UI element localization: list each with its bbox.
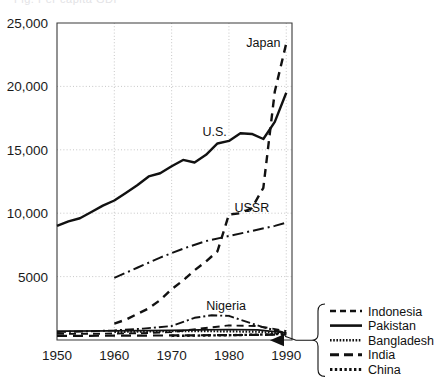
legend-leader-arrow [270, 304, 325, 376]
legend-label-china: China [368, 363, 401, 377]
x-gridlines [114, 23, 286, 340]
clipped-header-text: Fig. Per capita GDP [14, 0, 121, 5]
series-line-bangladesh [114, 331, 286, 334]
annotation-nigeria: Nigeria [206, 299, 246, 313]
legend-item-indonesia[interactable]: Indonesia [330, 305, 422, 319]
y-tick-25000: 25,000 [7, 16, 48, 31]
legend-item-bangladesh[interactable]: Bangladesh [330, 334, 434, 348]
annotation-ussr: USSR [235, 201, 270, 215]
y-axis-tick-labels: 500010,00015,00020,00025,000 [7, 16, 48, 285]
x-tick-1980: 1980 [214, 348, 244, 363]
plot-frame [57, 23, 292, 340]
legend-item-india[interactable]: India [330, 348, 395, 362]
series-line-ussr [114, 223, 286, 278]
y-tick-10000: 10,000 [7, 206, 48, 221]
x-tick-1950: 1950 [42, 348, 72, 363]
legend-label-pakistan: Pakistan [368, 319, 416, 333]
legend-label-indonesia: Indonesia [368, 305, 422, 319]
y-tick-20000: 20,000 [7, 79, 48, 94]
line-chart: 19501960197019801990 500010,00015,00020,… [0, 0, 435, 378]
legend-brace [312, 304, 325, 376]
legend-label-india: India [368, 348, 395, 362]
figure-container: Fig. Per capita GDP 19501960197019801990… [0, 0, 435, 378]
legend-item-pakistan[interactable]: Pakistan [330, 319, 416, 333]
legend-label-bangladesh: Bangladesh [368, 334, 434, 348]
annotation-us: U.S. [202, 125, 226, 139]
legend-item-china[interactable]: China [330, 363, 401, 377]
x-tick-1970: 1970 [157, 348, 187, 363]
legend-arrow-head [270, 334, 284, 346]
y-tick-15000: 15,000 [7, 143, 48, 158]
chart-legend: IndonesiaPakistanBangladeshIndiaChina [330, 305, 434, 377]
x-tick-1960: 1960 [99, 348, 129, 363]
x-tick-1990: 1990 [271, 348, 301, 363]
x-axis-tick-labels: 19501960197019801990 [42, 348, 301, 363]
y-tick-5000: 5000 [18, 270, 48, 285]
y-gridlines [57, 86, 292, 276]
series-annotations: JapanU.S.USSRNigeria [202, 36, 280, 313]
annotation-japan: Japan [246, 36, 280, 50]
